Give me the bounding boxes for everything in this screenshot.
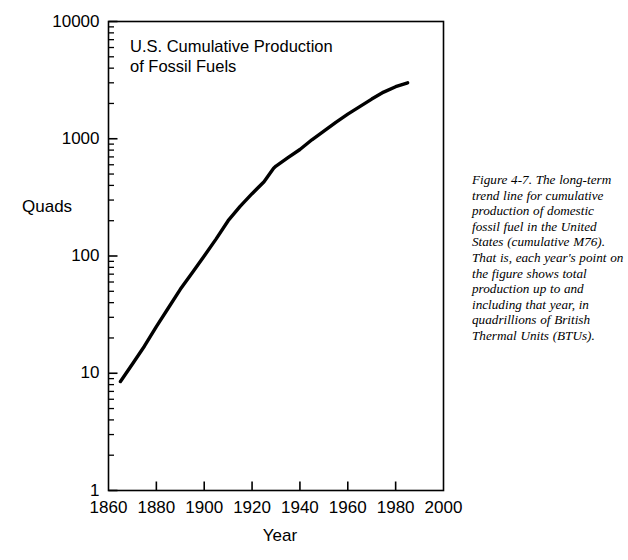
figure-caption: Figure 4-7. The long-term trend line for… bbox=[472, 172, 624, 344]
y-tick-label: 1 bbox=[90, 482, 99, 499]
y-axis-ticks bbox=[109, 22, 118, 491]
data-line-series bbox=[120, 83, 407, 382]
plot-frame bbox=[109, 22, 444, 491]
x-axis-label: Year bbox=[0, 527, 560, 545]
figure-4-7: U.S. Cumulative Production of Fossil Fue… bbox=[0, 0, 628, 560]
y-axis-label: Quads bbox=[22, 198, 72, 216]
y-tick-label: 10000 bbox=[52, 13, 99, 30]
x-axis-ticks bbox=[156, 482, 395, 491]
plot-title: U.S. Cumulative Production of Fossil Fue… bbox=[130, 36, 333, 76]
x-tick-label: 2000 bbox=[414, 499, 474, 516]
y-tick-label: 1000 bbox=[62, 130, 100, 147]
y-tick-label: 100 bbox=[71, 247, 99, 264]
y-tick-label: 10 bbox=[81, 364, 100, 381]
